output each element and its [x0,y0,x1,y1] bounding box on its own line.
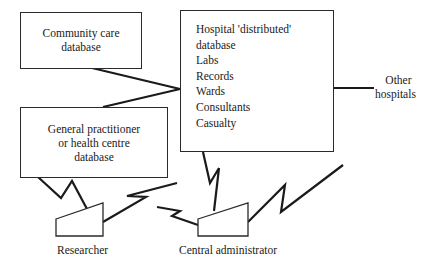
hospital-label: Hospital 'distributed' database Labs Rec… [196,22,291,131]
community-care-line-1: Community care [20,26,142,40]
edge-admin-to-external [248,165,343,222]
hospital-dept-wards: Wards [196,84,291,100]
community-care-line-2: database [20,40,142,54]
central-admin-terminal-icon [198,203,248,236]
hospital-dept-labs: Labs [196,53,291,69]
hospital-title: Hospital 'distributed' [196,22,291,38]
edge-community-to-hospital [92,68,180,89]
gp-label: General practitioner or health centre da… [20,122,168,164]
central-admin-label: Central administrator [179,243,277,257]
other-hospitals-label: Other hospitals [375,73,416,101]
hospital-dept-records: Records [196,69,291,85]
other-hospitals-line-2: hospitals [375,87,416,101]
gp-line-2: or health centre [20,136,168,150]
researcher-terminal-icon [56,203,103,236]
edge-gp-to-hospital [103,89,180,107]
edge-admin-from-researcher [157,207,198,225]
hospital-dept-casualty: Casualty [196,116,291,132]
edge-hospital-to-admin [203,152,219,211]
community-care-label: Community care database [20,26,142,54]
hospital-subtitle: database [196,38,291,54]
hospital-dept-consultants: Consultants [196,100,291,116]
researcher-label: Researcher [57,243,108,257]
edge-gp-to-researcher [38,177,87,209]
gp-line-3: database [20,150,168,164]
gp-line-1: General practitioner [20,122,168,136]
edge-researcher-to-admin [103,183,177,222]
other-hospitals-line-1: Other [375,73,416,87]
